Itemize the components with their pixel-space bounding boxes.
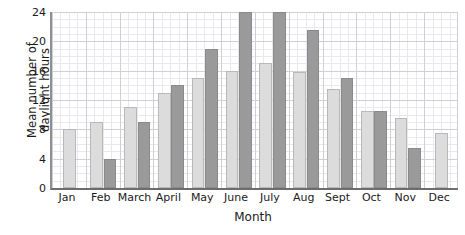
bar-dark xyxy=(171,85,184,188)
bar-light xyxy=(124,107,137,188)
bar-dark xyxy=(307,30,320,188)
bar-dark xyxy=(374,111,387,188)
bar-light xyxy=(293,72,306,188)
y-tick-label: 0 xyxy=(22,182,46,195)
bar-light xyxy=(63,129,76,188)
plot-area xyxy=(50,12,458,190)
bar-light xyxy=(327,89,340,188)
y-tick-label: 4 xyxy=(22,152,46,165)
x-tick-label: Oct xyxy=(362,191,381,204)
bar-light xyxy=(158,93,171,188)
y-tick-label: 20 xyxy=(22,35,46,48)
bar-light xyxy=(192,78,205,188)
x-tick-label: Aug xyxy=(293,191,314,204)
x-tick-label: Sept xyxy=(325,191,350,204)
x-axis-title: Month xyxy=(50,210,456,224)
y-tick-label: 8 xyxy=(22,123,46,136)
x-axis-tick-labels: JanFebMarchAprilMayJuneJulyAugSeptOctNov… xyxy=(50,191,456,207)
bar-light xyxy=(435,133,448,188)
x-tick-label: Nov xyxy=(395,191,416,204)
x-tick-label: May xyxy=(191,191,214,204)
bar-dark xyxy=(408,148,421,188)
x-tick-label: July xyxy=(260,191,280,204)
y-axis-tick-labels: 04812162024 xyxy=(22,0,46,235)
bars-layer xyxy=(52,12,458,188)
y-tick-label: 12 xyxy=(22,94,46,107)
bar-dark xyxy=(104,159,117,188)
x-tick-label: June xyxy=(224,191,248,204)
y-tick-label: 16 xyxy=(22,64,46,77)
bar-dark xyxy=(273,12,286,188)
daylight-hours-bar-chart: Mean number of daylight hours 0481216202… xyxy=(0,0,465,235)
bar-light xyxy=(395,118,408,188)
bar-light xyxy=(226,71,239,188)
x-tick-label: March xyxy=(118,191,152,204)
bar-dark xyxy=(239,12,252,188)
bar-light xyxy=(361,111,374,188)
x-tick-label: Feb xyxy=(91,191,110,204)
bar-light xyxy=(259,63,272,188)
bar-dark xyxy=(138,122,151,188)
x-tick-label: Dec xyxy=(428,191,449,204)
bar-dark xyxy=(205,49,218,188)
bar-light xyxy=(90,122,103,188)
x-tick-label: April xyxy=(156,191,181,204)
bar-dark xyxy=(341,78,354,188)
y-tick-label: 24 xyxy=(22,6,46,19)
x-tick-label: Jan xyxy=(58,191,75,204)
